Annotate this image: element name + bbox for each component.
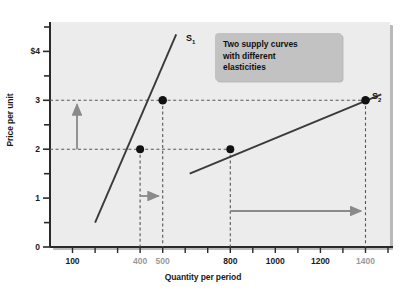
supply-curve-s1 — [95, 34, 176, 222]
x-axis-title: Quantity per period — [0, 272, 406, 282]
supply-curve-chart: 0 1 2 3 $4 100 400 500 800 1000 1200 140… — [0, 0, 406, 296]
guide-lines — [50, 100, 366, 247]
x-tick-label-800: 800 — [210, 256, 250, 266]
supply-curve-s2 — [190, 94, 382, 173]
chart-svg — [0, 0, 406, 296]
curve-label-s2: S2 — [372, 91, 381, 103]
curve-label-s2-subscript: 2 — [378, 97, 381, 103]
curve-label-s1-subscript: 1 — [192, 39, 195, 45]
data-point-s2-800-2 — [226, 145, 234, 153]
data-points — [136, 96, 370, 153]
x-tick-label-500: 500 — [143, 256, 183, 266]
y-tick-label-1: 1 — [14, 193, 40, 203]
data-point-s1-500-3 — [158, 96, 167, 105]
y-tick-label-0: 0 — [14, 242, 40, 252]
callout-box: Two supply curves with different elastic… — [215, 33, 342, 81]
y-axis-title: Price per unit — [5, 90, 15, 150]
y-axis-ticks — [43, 27, 50, 247]
callout-line-1: Two supply curves — [223, 39, 335, 51]
y-tick-label-4: $4 — [14, 46, 40, 56]
x-tick-label-1000: 1000 — [255, 256, 295, 266]
x-tick-label-100: 100 — [53, 256, 93, 266]
callout-line-3: elasticities — [223, 62, 335, 74]
y-tick-label-3: 3 — [14, 95, 40, 105]
x-tick-label-1200: 1200 — [300, 256, 340, 266]
y-tick-label-2: 2 — [14, 144, 40, 154]
curve-label-s1: S1 — [186, 33, 195, 45]
x-tick-label-1400: 1400 — [346, 256, 386, 266]
callout-line-2: with different — [223, 51, 335, 63]
data-point-s2-1400-3 — [361, 96, 370, 105]
data-point-s1-400-2 — [136, 145, 144, 153]
